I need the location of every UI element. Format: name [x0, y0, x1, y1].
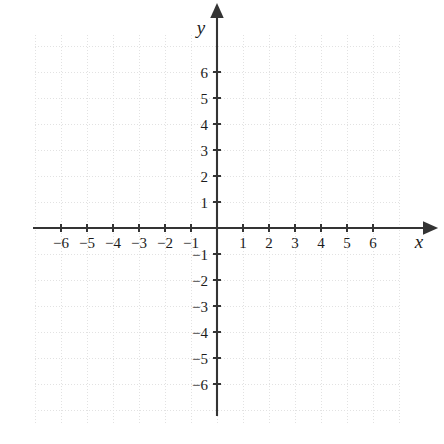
y-tick-label: −4 — [192, 325, 208, 341]
x-axis-tick-labels: −6−5−4−3−2−1123456 — [53, 235, 377, 251]
y-tick-label: −3 — [192, 299, 208, 315]
y-tick-label: 5 — [201, 91, 209, 107]
x-tick-label: −3 — [131, 235, 147, 251]
x-tick-label: 2 — [265, 235, 273, 251]
y-tick-label: −5 — [192, 351, 208, 367]
coordinate-plane-figure: −6−5−4−3−2−1123456 −6−5−4−3−2−1123456 x … — [0, 0, 444, 444]
y-tick-label: 3 — [201, 143, 209, 159]
y-tick-label: −6 — [192, 377, 208, 393]
y-tick-label: 2 — [201, 169, 209, 185]
y-axis-label: y — [195, 17, 206, 38]
y-tick-label: 1 — [201, 195, 209, 211]
x-tick-label: −6 — [53, 235, 69, 251]
x-tick-label: −2 — [157, 235, 173, 251]
x-tick-label: −5 — [79, 235, 95, 251]
coordinate-plane-svg: −6−5−4−3−2−1123456 −6−5−4−3−2−1123456 x … — [0, 0, 444, 444]
y-tick-label: −2 — [192, 273, 208, 289]
x-tick-label: 1 — [239, 235, 247, 251]
x-tick-label: 6 — [369, 235, 377, 251]
x-tick-label: 3 — [291, 235, 299, 251]
x-tick-label: 4 — [317, 235, 325, 251]
y-tick-label: −1 — [192, 247, 208, 263]
y-tick-label: 6 — [201, 65, 209, 81]
axes-lines — [33, 18, 423, 416]
x-tick-label: −4 — [105, 235, 121, 251]
x-axis-label: x — [414, 231, 424, 252]
x-tick-label: 5 — [343, 235, 351, 251]
y-tick-label: 4 — [201, 117, 209, 133]
